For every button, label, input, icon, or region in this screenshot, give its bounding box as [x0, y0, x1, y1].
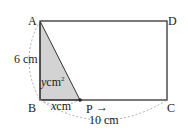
- unit-squared: 2: [61, 75, 65, 83]
- unit-cm-area: cm: [46, 75, 61, 89]
- unit-cm: cm: [56, 99, 71, 113]
- vertex-label-c: C: [167, 101, 175, 115]
- label-10cm: 10 cm: [89, 113, 119, 127]
- vertex-label-d: D: [168, 14, 177, 28]
- point-p-dot: [78, 98, 82, 102]
- label-6cm: 6 cm: [14, 52, 38, 66]
- rectangle-triangle-diagram: A D B C P → 6 cm 10 cm xcm ycm2: [0, 0, 188, 137]
- vertex-label-a: A: [28, 14, 37, 28]
- direction-arrow: →: [96, 100, 108, 114]
- vertex-label-b: B: [28, 101, 36, 115]
- label-x-cm: xcm: [50, 99, 72, 113]
